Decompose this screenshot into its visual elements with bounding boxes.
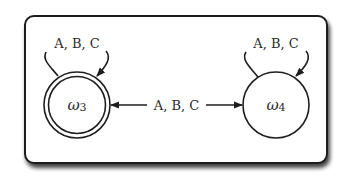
diagram-canvas: ω3 ω4 A, B, C A, B, C A, B, C — [0, 0, 343, 182]
loop-w3-label: A, B, C — [53, 36, 99, 51]
edge-w3-w4-label: A, B, C — [153, 98, 199, 113]
loop-w4-label: A, B, C — [252, 36, 298, 51]
state-diagram: ω3 ω4 A, B, C A, B, C A, B, C — [0, 0, 343, 182]
